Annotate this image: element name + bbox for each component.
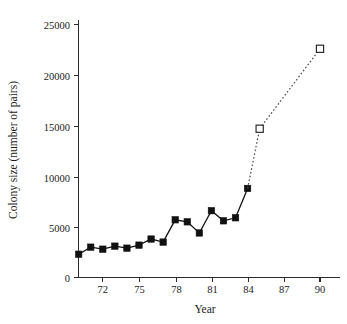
x-tick-label-84: 84 xyxy=(243,284,254,295)
x-tick-label-75: 75 xyxy=(134,284,145,295)
x-tick-label-87: 87 xyxy=(279,284,290,295)
data-point-filled-square xyxy=(136,242,142,248)
data-point-filled-square xyxy=(232,215,238,221)
data-point-open-square xyxy=(256,125,263,132)
data-point-open-square xyxy=(316,45,323,52)
y-axis-tick-labels: 25000 20000 15000 10000 5000 0 xyxy=(44,20,70,284)
x-tick-label-72: 72 xyxy=(98,284,109,295)
projected-trend-line xyxy=(248,49,320,189)
data-point-filled-square xyxy=(75,251,81,257)
data-point-filled-square xyxy=(208,208,214,214)
data-point-filled-square xyxy=(244,185,250,191)
data-point-filled-square xyxy=(160,239,166,245)
data-point-filled-square xyxy=(184,219,190,225)
data-series-layer xyxy=(75,45,323,257)
x-tick-label-78: 78 xyxy=(171,284,182,295)
x-axis-title: Year xyxy=(194,303,215,315)
y-axis-title: Colony size (number of pairs) xyxy=(7,81,20,219)
data-point-filled-square xyxy=(88,244,94,250)
colony-size-line-chart: 25000 20000 15000 10000 5000 0 72 75 78 … xyxy=(0,0,347,324)
data-point-filled-square xyxy=(112,243,118,249)
y-tick-label-5000: 5000 xyxy=(49,223,70,234)
axes-group xyxy=(79,20,341,278)
y-tick-label-15000: 15000 xyxy=(44,122,70,133)
x-axis-ticks xyxy=(103,278,320,283)
data-point-filled-square xyxy=(220,218,226,224)
chart-figure: 25000 20000 15000 10000 5000 0 72 75 78 … xyxy=(0,0,347,324)
y-tick-label-20000: 20000 xyxy=(44,71,70,82)
data-point-filled-square xyxy=(124,245,130,251)
x-tick-label-81: 81 xyxy=(207,284,218,295)
y-axis-ticks xyxy=(74,25,79,278)
data-point-filled-square xyxy=(148,236,154,242)
y-tick-label-0: 0 xyxy=(65,273,70,284)
x-axis-tick-labels: 72 75 78 81 84 87 90 xyxy=(98,284,326,295)
y-tick-label-25000: 25000 xyxy=(44,20,70,31)
data-point-filled-square xyxy=(100,246,106,252)
y-tick-label-10000: 10000 xyxy=(44,173,70,184)
x-tick-label-90: 90 xyxy=(315,284,326,295)
data-point-filled-square xyxy=(172,217,178,223)
data-point-filled-square xyxy=(196,230,202,236)
